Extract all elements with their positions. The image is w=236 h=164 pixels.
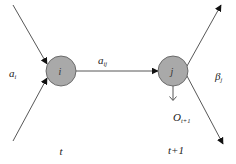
- observation-label: Ot+1: [173, 111, 190, 124]
- incoming-edge-top: [13, 5, 47, 64]
- transition-label: aij: [98, 54, 107, 67]
- time-t-label: t: [59, 145, 63, 157]
- time-t1-label: t+1: [168, 144, 184, 156]
- beta-label: βj: [214, 70, 222, 83]
- node-i-label: i: [59, 66, 62, 77]
- outgoing-edge-bottom: [187, 76, 223, 144]
- node-j: j: [158, 56, 188, 86]
- hmm-transition-diagram: i j ai aij βj Ot+1 t t+1: [0, 0, 236, 164]
- outgoing-edge-top: [187, 5, 221, 66]
- incoming-edge-bottom: [13, 78, 47, 141]
- node-i: i: [46, 56, 76, 86]
- alpha-label: ai: [9, 67, 17, 80]
